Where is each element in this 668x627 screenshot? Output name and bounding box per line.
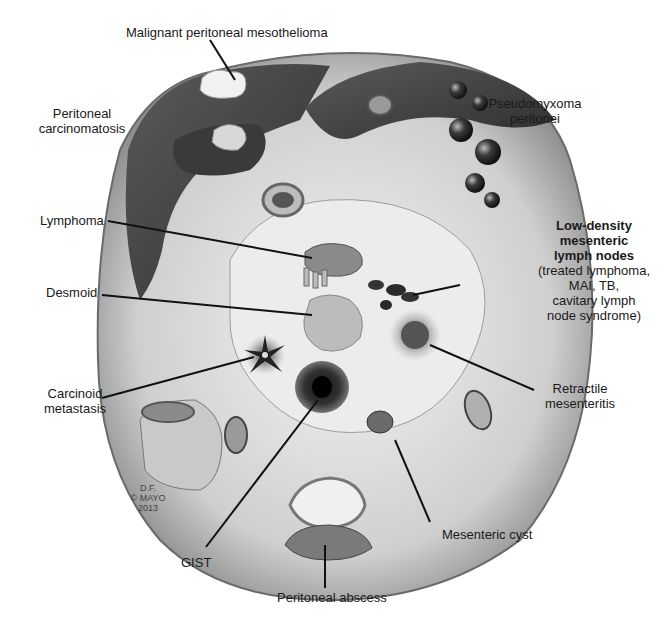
label-line: peritonei [480,111,590,126]
credit-line: © MAYO [128,493,168,503]
label-peritoneal-abscess: Peritoneal abscess [277,590,387,605]
mesenteric-cyst [367,411,393,433]
label-peritoneal-carcinomatosis: Peritoneal carcinomatosis [27,106,137,136]
label-lymphoma: Lymphoma [40,213,104,228]
label-line: cavitary lymph [524,293,664,308]
label-low-density-mesenteric-lymph-nodes: Low-density mesenteric lymph nodes (trea… [524,218,664,323]
label-malignant-peritoneal-mesothelioma: Malignant peritoneal mesothelioma [126,25,328,40]
desmoid-mass [304,295,363,351]
label-carcinoid-metastasis: Carcinoid metastasis [35,386,115,416]
label-line: Pseudomyxoma [480,96,590,111]
label-line: Peritoneal [27,106,137,121]
mesothelioma-nodule [200,70,246,98]
illustration-stage: Malignant peritoneal mesothelioma Perito… [0,0,668,627]
label-line: metastasis [35,401,115,416]
illustration-credit: D.F. © MAYO 2013 [128,483,168,513]
label-line: carcinomatosis [27,121,137,136]
label-line: mesenteritis [535,396,625,411]
pseudomyxoma-sphere [449,81,467,99]
label-gist: GIST [181,555,211,570]
label-line: (treated lymphoma, [524,263,664,278]
label-line: node syndrome) [524,308,664,323]
credit-line: D.F. [128,483,168,493]
label-line: Carcinoid [35,386,115,401]
label-mesenteric-cyst: Mesenteric cyst [442,527,532,542]
label-line: MAI, TB, [524,278,664,293]
label-retractile-mesenteritis: Retractile mesenteritis [535,381,625,411]
label-line: mesenteric [524,233,664,248]
label-line: lymph nodes [524,248,664,263]
label-line: Low-density [524,218,664,233]
label-pseudomyxoma-peritonei: Pseudomyxoma peritonei [480,96,590,126]
low-density-lymph-node [368,280,384,290]
label-line: Retractile [535,381,625,396]
credit-line: 2013 [128,503,168,513]
label-desmoid: Desmoid [46,285,97,300]
lymphoma-mass [305,244,362,277]
